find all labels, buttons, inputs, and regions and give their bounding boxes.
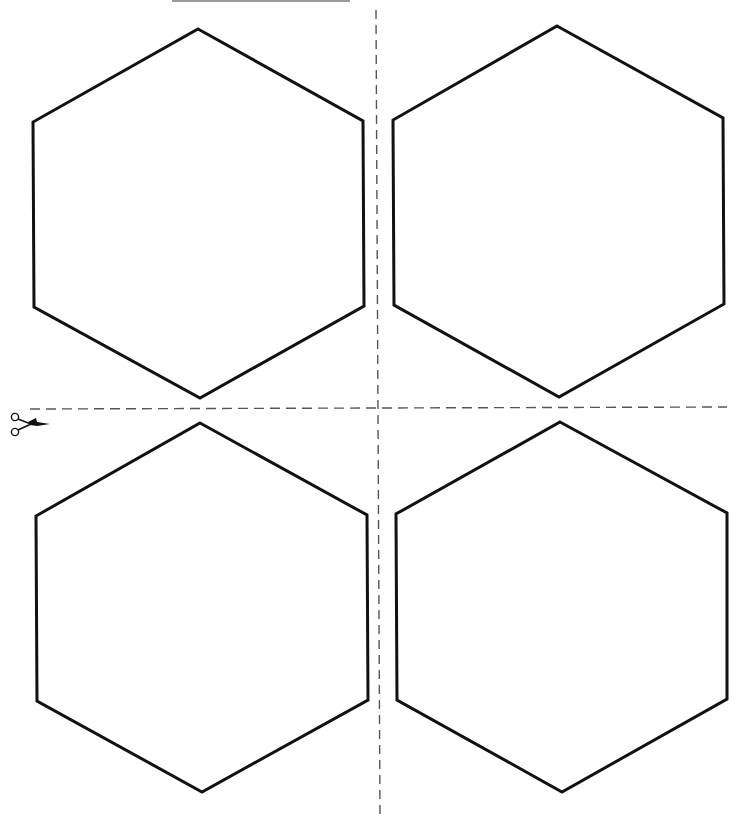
hexagon-top-right <box>393 26 724 397</box>
template-sheet: Copyright notice (text clipped at bottom… <box>0 0 737 824</box>
hexagon-bottom-right <box>396 422 727 792</box>
footer-copyright-text: Copyright notice (text clipped at bottom… <box>36 817 696 824</box>
scissors-icon <box>9 411 53 439</box>
top-rule <box>172 0 350 2</box>
hexagon-bottom-left <box>36 423 368 792</box>
hexagon-top-left <box>33 29 364 398</box>
vertical-cut-line <box>376 10 380 820</box>
hexagon-template-canvas <box>0 0 737 824</box>
